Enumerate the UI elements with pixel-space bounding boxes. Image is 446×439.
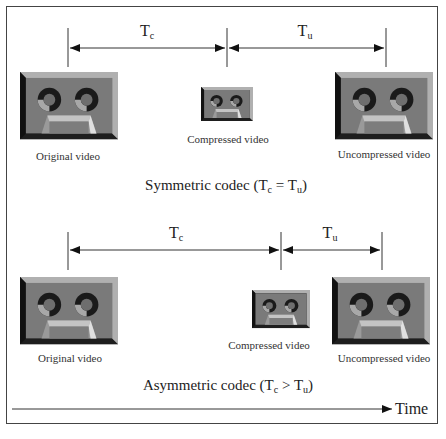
compressed-video-tape-icon bbox=[201, 87, 253, 121]
decompress-time-label-asym: Tu bbox=[323, 224, 338, 243]
decompress-time-label: Tu bbox=[298, 22, 313, 41]
compressed-video-label: Compressed video bbox=[187, 133, 269, 145]
uncompressed-video-tape-icon bbox=[335, 72, 433, 139]
compress-time-label-asym: Tc bbox=[169, 224, 183, 243]
diagram-graphics bbox=[0, 0, 446, 439]
original-video-label-asym: Original video bbox=[38, 352, 102, 364]
asymmetric-codec-caption: Asymmetric codec (Tc > Tu) bbox=[143, 377, 313, 395]
original-video-tape-icon bbox=[20, 72, 118, 139]
original-video-label: Original video bbox=[36, 150, 100, 162]
uncompressed-video-label-asym: Uncompressed video bbox=[338, 352, 431, 364]
compressed-video-label-asym: Compressed video bbox=[228, 339, 310, 351]
uncompressed-video-label: Uncompressed video bbox=[338, 148, 431, 160]
symmetric-codec-caption: Symmetric codec (Tc = Tu) bbox=[145, 177, 307, 195]
compress-time-label: Tc bbox=[140, 22, 154, 41]
time-axis-label: Time bbox=[395, 400, 428, 418]
